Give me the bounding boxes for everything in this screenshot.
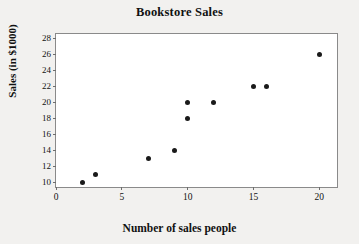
data-point: [185, 116, 190, 121]
data-points-layer: [56, 34, 337, 187]
y-tick-mark: [53, 118, 56, 119]
x-tick-label: 10: [168, 192, 208, 202]
chart-title: Bookstore Sales: [0, 5, 359, 20]
x-tick-mark: [121, 187, 122, 190]
y-tick-mark: [53, 54, 56, 55]
data-point: [211, 100, 216, 105]
x-tick-label: 5: [102, 192, 142, 202]
data-point: [185, 100, 190, 105]
data-point: [264, 84, 269, 89]
y-tick-label: 10: [42, 176, 51, 189]
y-tick-mark: [53, 102, 56, 103]
x-tick-mark: [187, 187, 188, 190]
y-tick-mark: [53, 182, 56, 183]
y-tick-mark: [53, 166, 56, 167]
data-point: [146, 156, 151, 161]
y-tick-label: 24: [42, 64, 51, 77]
y-tick-mark: [53, 86, 56, 87]
y-tick-label: 16: [42, 128, 51, 141]
y-tick-label: 20: [42, 96, 51, 109]
y-tick-label: 18: [42, 112, 51, 125]
x-axis-label: Number of sales people: [0, 222, 359, 234]
data-point: [80, 180, 85, 185]
data-point: [93, 172, 98, 177]
data-point: [317, 52, 322, 57]
data-point: [251, 84, 256, 89]
x-tick-label: 0: [36, 192, 76, 202]
x-tick-mark: [56, 187, 57, 190]
y-axis-label: Sales (in $1000): [6, 0, 18, 141]
y-tick-mark: [53, 70, 56, 71]
y-tick-label: 12: [42, 160, 51, 173]
y-tick-label: 26: [42, 48, 51, 61]
y-tick-mark: [53, 150, 56, 151]
y-tick-mark: [53, 38, 56, 39]
y-tick-mark: [53, 134, 56, 135]
scatter-chart-figure: Bookstore Sales 10121416182022242628 051…: [0, 0, 359, 244]
plot-area: 10121416182022242628 05101520: [55, 33, 338, 188]
x-tick-mark: [253, 187, 254, 190]
x-tick-label: 20: [299, 192, 339, 202]
y-tick-label: 22: [42, 80, 51, 93]
x-tick-label: 15: [233, 192, 273, 202]
y-tick-label: 14: [42, 144, 51, 157]
y-tick-label: 28: [42, 32, 51, 45]
data-point: [172, 148, 177, 153]
x-tick-mark: [319, 187, 320, 190]
